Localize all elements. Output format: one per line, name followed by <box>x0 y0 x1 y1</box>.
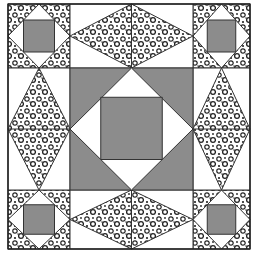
center-gray-square <box>101 97 163 159</box>
corner-top-left-gray-square <box>24 20 55 52</box>
corner-bottom-left-gray-square <box>24 205 55 235</box>
quilt-pattern <box>0 0 254 254</box>
corner-top-right-gray-square <box>207 20 236 52</box>
corner-bottom-right-gray-square <box>207 205 236 235</box>
quilt-body <box>8 4 250 249</box>
